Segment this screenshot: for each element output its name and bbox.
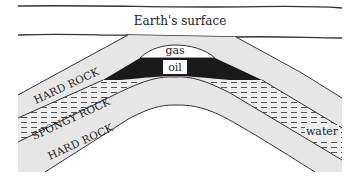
- anticline-diagram: Earth's surface gas oil water HARD ROCK …: [0, 0, 361, 185]
- gas-label: gas: [165, 44, 185, 57]
- oil-label: oil: [168, 61, 182, 74]
- earth-surface-label: Earth's surface: [134, 14, 227, 28]
- sky-top-line: [18, 6, 342, 8]
- water-label: water: [306, 125, 339, 138]
